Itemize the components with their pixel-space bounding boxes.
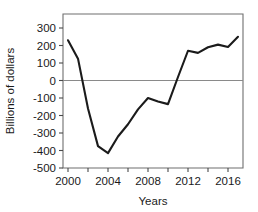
x-axis-title: Years (139, 195, 168, 207)
y-tick-label: 0 (50, 75, 56, 87)
x-tick-label: 2004 (95, 175, 121, 187)
y-axis-ticks (59, 28, 63, 168)
y-tick-label: -300 (33, 127, 56, 139)
y-tick-label: -200 (33, 110, 56, 122)
y-tick-label: -100 (33, 92, 56, 104)
y-tick-label: 300 (37, 22, 56, 34)
plot-area-background (63, 14, 243, 168)
y-tick-label: -400 (33, 145, 56, 157)
line-chart: 3002001000-100-200-300-400-500 200020042… (0, 0, 258, 212)
y-tick-label: -500 (33, 162, 56, 174)
x-tick-label: 2012 (175, 175, 201, 187)
x-axis-tick-labels: 20002004200820122016 (55, 175, 241, 187)
x-tick-label: 2000 (55, 175, 81, 187)
y-axis-title: Billions of dollars (4, 48, 16, 135)
x-tick-label: 2008 (135, 175, 161, 187)
y-axis-tick-labels: 3002001000-100-200-300-400-500 (33, 22, 56, 174)
x-tick-label: 2016 (215, 175, 241, 187)
y-tick-label: 100 (37, 57, 56, 69)
x-axis-ticks (68, 168, 228, 172)
y-tick-label: 200 (37, 40, 56, 52)
chart-figure: 3002001000-100-200-300-400-500 200020042… (0, 0, 258, 212)
